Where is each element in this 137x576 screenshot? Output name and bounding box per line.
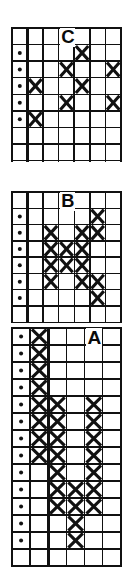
x-mark	[76, 258, 88, 272]
x-mark	[32, 363, 47, 377]
x-mark	[107, 96, 119, 110]
x-mark	[86, 414, 101, 428]
x-mark	[76, 275, 88, 289]
dot-mark	[18, 231, 22, 235]
x-mark	[50, 397, 65, 411]
dot-mark	[19, 454, 23, 458]
x-mark	[86, 448, 101, 462]
x-mark	[32, 380, 47, 394]
x-mark	[76, 79, 88, 93]
x-mark	[86, 397, 101, 411]
dot-mark	[18, 101, 22, 105]
x-mark	[68, 533, 83, 547]
x-mark	[86, 499, 101, 513]
x-mark	[91, 291, 103, 305]
dot-mark	[19, 352, 23, 356]
dot-mark	[19, 505, 23, 509]
x-mark	[76, 46, 88, 60]
grid-panel-a: A	[0, 324, 137, 572]
dot-mark	[19, 539, 23, 543]
figure-root: C B A	[0, 0, 137, 576]
x-mark	[32, 431, 47, 445]
x-mark	[50, 499, 65, 513]
grid-panel-c: C	[0, 24, 137, 167]
x-mark	[68, 499, 83, 513]
x-mark	[76, 242, 88, 256]
dot-mark	[19, 335, 23, 339]
x-mark	[29, 112, 41, 126]
x-mark	[32, 329, 47, 343]
x-mark	[45, 242, 57, 256]
x-mark	[50, 482, 65, 496]
x-mark	[107, 63, 119, 77]
x-mark	[32, 397, 47, 411]
dot-mark	[19, 403, 23, 407]
dot-mark	[19, 369, 23, 373]
dot-mark	[18, 247, 22, 251]
x-mark	[60, 96, 72, 110]
x-mark	[68, 516, 83, 530]
x-mark	[86, 482, 101, 496]
x-mark	[32, 346, 47, 360]
x-mark	[45, 258, 57, 272]
dot-mark	[18, 263, 22, 267]
dot-mark	[18, 84, 22, 88]
dot-mark	[19, 386, 23, 390]
x-mark	[60, 242, 72, 256]
dot-mark	[18, 214, 22, 218]
dot-mark	[18, 51, 22, 55]
x-mark	[45, 226, 57, 240]
x-mark	[32, 448, 47, 462]
dot-mark	[18, 296, 22, 300]
dot-mark	[19, 420, 23, 424]
x-mark	[32, 414, 47, 428]
x-mark	[91, 275, 103, 289]
dot-mark	[18, 117, 22, 121]
x-mark	[76, 226, 88, 240]
panel-label-b: B	[60, 192, 75, 210]
lattice-grid	[0, 324, 137, 572]
dot-mark	[19, 471, 23, 475]
x-mark	[60, 258, 72, 272]
x-mark	[29, 79, 41, 93]
x-mark	[91, 210, 103, 224]
x-mark	[50, 465, 65, 479]
x-mark	[91, 226, 103, 240]
dot-mark	[18, 67, 22, 71]
dot-mark	[19, 437, 23, 441]
panel-label-c: C	[60, 28, 75, 47]
panel-label-a: A	[86, 328, 101, 347]
x-mark	[68, 482, 83, 496]
x-mark	[60, 63, 72, 77]
x-mark	[86, 431, 101, 445]
x-mark	[45, 275, 57, 289]
x-mark	[86, 465, 101, 479]
dot-mark	[18, 280, 22, 284]
x-mark	[50, 414, 65, 428]
grid-panel-b: B	[0, 188, 137, 328]
x-mark	[50, 448, 65, 462]
dot-mark	[19, 488, 23, 492]
dot-mark	[19, 522, 23, 526]
x-mark	[50, 431, 65, 445]
